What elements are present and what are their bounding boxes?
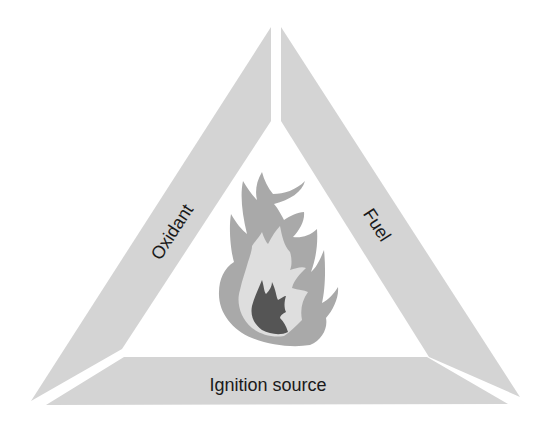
ignition-source-label: Ignition source bbox=[209, 375, 326, 395]
fire-triangle-diagram: Oxidant Fuel Ignition source bbox=[0, 0, 542, 422]
ignition-source-side: Ignition source bbox=[46, 357, 508, 405]
fuel-bar bbox=[281, 27, 520, 397]
flame-icon bbox=[219, 172, 338, 346]
fuel-side: Fuel bbox=[281, 27, 520, 397]
oxidant-bar bbox=[31, 27, 271, 401]
oxidant-side: Oxidant bbox=[31, 27, 271, 401]
